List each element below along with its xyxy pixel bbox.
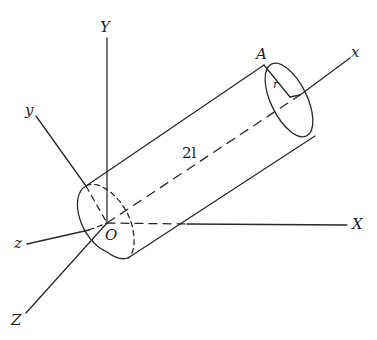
far-end-ellipse	[255, 56, 322, 144]
label-Y: Y	[100, 20, 110, 35]
label-A: A	[256, 47, 267, 62]
x-axis	[300, 58, 350, 95]
Z-axis	[26, 223, 107, 313]
x-axis-dashed	[107, 95, 300, 223]
label-x: x	[351, 45, 359, 60]
diagram-drawing	[0, 0, 377, 340]
cylinder-top-edge	[86, 65, 264, 186]
z-axis	[27, 230, 89, 244]
X-axis	[187, 224, 347, 225]
label-O: O	[105, 228, 117, 243]
label-Z: Z	[11, 313, 21, 328]
y-axis	[36, 116, 86, 186]
label-y: y	[25, 103, 33, 118]
label-z: z	[14, 236, 22, 251]
cylinder-axes-diagram: Y y z Z X x O A r 2l	[0, 0, 377, 340]
y-axis-dashed	[86, 186, 107, 223]
X-axis-dashed	[107, 223, 187, 224]
label-r: r	[273, 79, 278, 90]
label-length: 2l	[182, 146, 196, 161]
label-X: X	[352, 217, 363, 232]
cylinder-bottom-edge	[128, 136, 315, 258]
